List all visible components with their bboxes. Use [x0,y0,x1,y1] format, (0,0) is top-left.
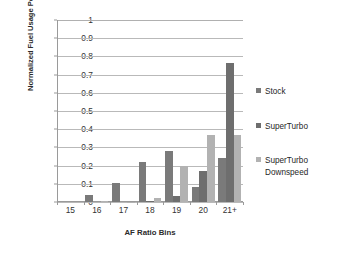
x-axis-tick-label: 21+ [216,205,243,215]
legend-swatch-icon [256,157,261,162]
bar-group [190,20,217,202]
bar-group [137,20,164,202]
bar-group [110,20,137,202]
x-axis-tick-label: 19 [163,205,190,215]
bar [234,135,242,202]
bar [101,201,109,202]
bar-group [216,20,243,202]
plot-area [57,20,243,202]
x-axis-tick-label: 15 [57,205,84,215]
x-axis-tick-mark [243,202,244,205]
x-axis-tick-label: 18 [137,205,164,215]
bar-group [163,20,190,202]
legend-label: SuperTurbo [265,121,308,133]
legend-item[interactable]: SuperTurbo [256,121,340,133]
bar-group [84,20,111,202]
x-axis-tick-label: 17 [110,205,137,215]
bar [146,201,154,202]
bar [154,198,162,202]
legend-item[interactable]: SuperTurbo Downspeed [256,155,340,178]
bar [207,135,215,202]
bar [199,171,207,202]
chart-legend: StockSuperTurboSuperTurbo Downspeed [256,86,340,201]
gridline [57,202,243,203]
legend-swatch-icon [256,88,261,93]
bar-groups [57,20,243,202]
x-axis-title: AF Ratio Bins [57,228,243,237]
x-axis-tick-labels: 15161718192021+ [57,205,243,215]
bar [192,187,200,202]
bar [85,195,93,202]
bar-chart: Normalized Fuel Usage Per Bin 00.10.20.3… [0,0,342,253]
legend-label: SuperTurbo Downspeed [265,155,308,178]
legend-label: Stock [265,86,285,98]
bar-group [57,20,84,202]
bar [165,151,173,202]
x-axis-tick-label: 20 [190,205,217,215]
y-axis-title: Normalized Fuel Usage Per Bin [26,0,35,124]
bar [180,166,188,202]
legend-swatch-icon [256,123,261,128]
bar [139,162,147,202]
bar [218,158,226,202]
bar [173,196,181,202]
bar [112,183,120,202]
bar [226,63,234,202]
legend-item[interactable]: Stock [256,86,340,98]
x-axis-tick-label: 16 [84,205,111,215]
